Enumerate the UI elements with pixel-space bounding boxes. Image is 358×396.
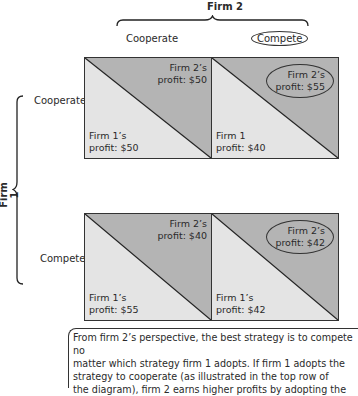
firm1-profit: Firm 1’sprofit: $50 (89, 130, 139, 154)
caption-line: From firm 2’s perspective, the best stra… (73, 331, 354, 357)
caption-box: From firm 2’s perspective, the best stra… (68, 328, 358, 388)
firm2-profit: Firm 2’sprofit: $40 (157, 218, 207, 242)
row-label-cooperate: Cooperate (34, 95, 86, 106)
firm2-profit-circled: Firm 2’sprofit: $55 (266, 64, 334, 98)
row-label-compete: Compete (40, 253, 85, 264)
firm1-profit: Firm 1profit: $40 (216, 130, 266, 154)
firm1-brace (12, 94, 24, 286)
caption-line: matter which strategy firm 1 adopts. If … (73, 357, 354, 370)
column-label-cooperate: Cooperate (126, 33, 178, 44)
firm1-profit: Firm 1’sprofit: $55 (89, 292, 139, 316)
firm2-profit: Firm 2’sprofit: $50 (157, 62, 207, 86)
firm1-profit: Firm 1’sprofit: $42 (216, 292, 266, 316)
column-label-compete: Compete (251, 31, 308, 46)
firm2-title: Firm 2 (100, 1, 350, 12)
firm2-brace (115, 15, 310, 27)
caption-line: the diagram), firm 2 earns higher profit… (73, 383, 354, 396)
caption-line: strategy to cooperate (as illustrated in… (73, 370, 354, 383)
cell-compete-cooperate: Firm 2’sprofit: $40 Firm 1’sprofit: $55 (84, 213, 212, 321)
firm2-profit-circled: Firm 2’sprofit: $42 (266, 220, 334, 254)
cell-cooperate-compete: Firm 2’sprofit: $55 Firm 1profit: $40 (211, 57, 339, 159)
cell-cooperate-cooperate: Firm 2’sprofit: $50 Firm 1’sprofit: $50 (84, 57, 212, 159)
cell-compete-compete: Firm 2’sprofit: $42 Firm 1’sprofit: $42 (211, 213, 339, 321)
